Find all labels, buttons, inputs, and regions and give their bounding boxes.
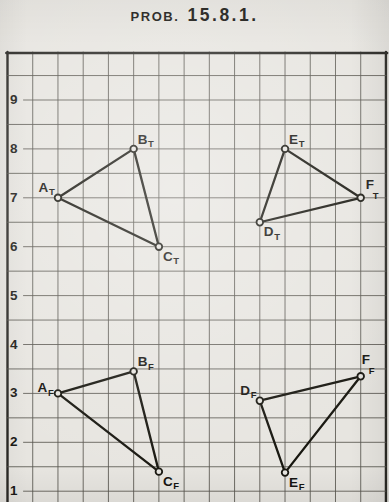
vertex-point-CF <box>156 468 163 475</box>
vertex-subscript: F <box>173 480 179 491</box>
vertex-label-BT: BT <box>138 133 154 147</box>
triangle-edge-DT-ET <box>260 149 285 222</box>
vertex-subscript: T <box>173 255 179 266</box>
vertex-letter: C <box>163 249 173 264</box>
vertex-letter: F <box>366 180 379 191</box>
vertex-point-DF <box>257 397 264 404</box>
axis-tick-label-2: 2 <box>10 433 24 451</box>
problem-figure: PROB.15.8.1. 987654321ATBTCTDTETFTAFBFCF… <box>0 0 389 502</box>
vertex-label-FT: FT <box>366 180 379 202</box>
vertex-subscript: F <box>48 387 54 398</box>
vertex-label-FF: FF <box>362 355 375 377</box>
vertex-subscript: T <box>274 231 280 242</box>
axis-tick-label-7: 7 <box>10 189 24 207</box>
triangle-edge-AF-BF <box>58 371 134 393</box>
triangle-edge-BF-CF <box>134 371 159 471</box>
vertex-label-AF: AF <box>37 381 53 395</box>
vertex-letter: B <box>138 132 148 147</box>
vertex-label-DT: DT <box>264 225 280 239</box>
vertex-point-AF <box>55 390 62 397</box>
vertex-subscript: T <box>148 138 154 149</box>
vertex-subscript: F <box>299 481 305 492</box>
vertex-subscript: F <box>251 389 257 400</box>
vertex-letter: D <box>264 224 274 239</box>
vertex-label-AT: AT <box>38 181 54 195</box>
vertex-label-BF: BF <box>138 355 154 369</box>
vertex-letter: F <box>362 355 375 366</box>
vertex-label-ET: ET <box>289 133 305 147</box>
vertex-letter: D <box>240 383 250 398</box>
vertex-label-CF: CF <box>163 475 179 489</box>
vertex-point-CT <box>156 243 163 250</box>
vertex-letter: E <box>289 132 298 147</box>
vertex-point-ET <box>282 146 289 153</box>
axis-tick-label-9: 9 <box>10 91 24 109</box>
vertex-subscript: F <box>148 361 154 372</box>
vertex-letter: A <box>37 380 47 395</box>
vertex-point-EF <box>282 469 289 476</box>
axis-tick-label-5: 5 <box>10 287 24 305</box>
axis-tick-label-4: 4 <box>10 336 24 354</box>
vertex-subscript: F <box>369 366 375 377</box>
vertex-point-DT <box>257 219 264 226</box>
plot-svg <box>0 0 389 502</box>
vertex-letter: A <box>38 180 48 195</box>
vertex-point-FT <box>357 195 364 202</box>
axis-tick-label-6: 6 <box>10 238 24 256</box>
axis-tick-label-3: 3 <box>10 384 24 402</box>
vertex-label-EF: EF <box>289 476 305 490</box>
vertex-point-BF <box>130 368 137 375</box>
axis-tick-label-1: 1 <box>10 482 24 500</box>
triangle-edge-DF-EF <box>260 401 285 473</box>
vertex-letter: B <box>138 354 148 369</box>
vertex-point-AT <box>55 195 62 202</box>
vertex-label-DF: DF <box>240 384 256 398</box>
vertex-point-BT <box>130 146 137 153</box>
vertex-subscript: T <box>373 191 379 202</box>
axis-tick-label-8: 8 <box>10 140 24 158</box>
vertex-label-CT: CT <box>163 250 179 264</box>
vertex-letter: E <box>289 475 298 490</box>
vertex-letter: C <box>163 474 173 489</box>
vertex-subscript: T <box>49 186 55 197</box>
vertex-subscript: T <box>299 138 305 149</box>
